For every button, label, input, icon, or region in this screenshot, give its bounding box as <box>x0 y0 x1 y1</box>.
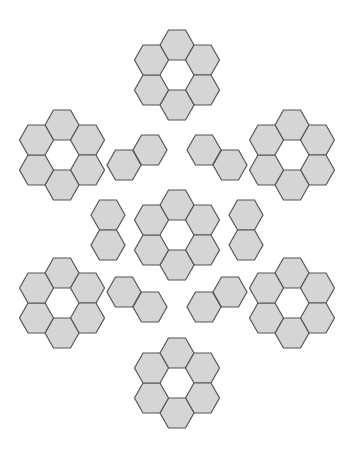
hexagon-puzzle-figure <box>0 0 352 452</box>
hexagon-puzzle-svg <box>0 0 352 452</box>
figure-background <box>0 0 352 452</box>
